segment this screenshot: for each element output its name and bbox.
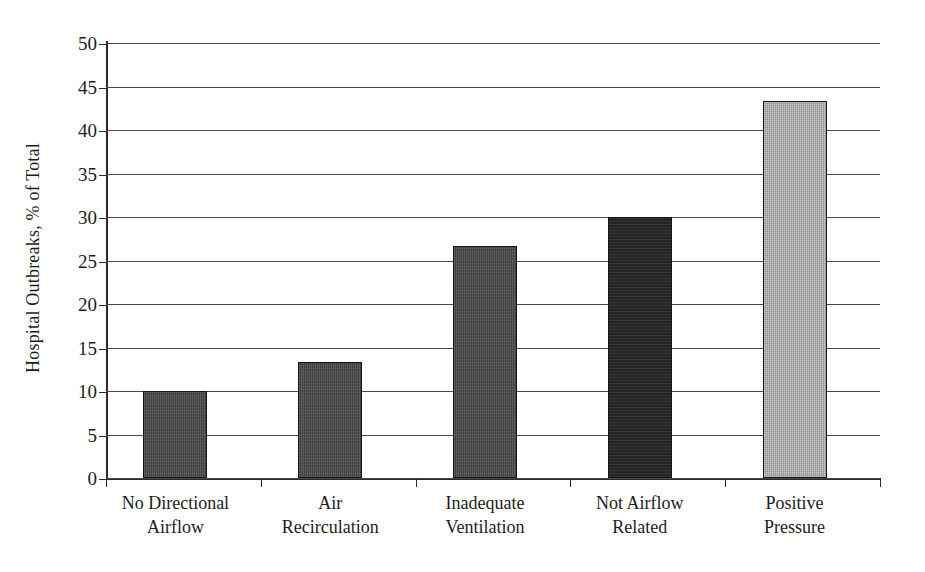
x-category-label-line: Airflow xyxy=(98,516,253,540)
y-tick-label: 35 xyxy=(78,165,97,184)
y-gridline: 0 xyxy=(106,478,880,479)
x-category-label-line: Air xyxy=(253,492,408,516)
x-tick-mark xyxy=(880,478,881,487)
x-category-label-line: Not Airflow xyxy=(562,492,717,516)
x-category-label-line: Ventilation xyxy=(408,516,563,540)
x-category-label-line: Related xyxy=(562,516,717,540)
y-tick-label: 10 xyxy=(78,382,97,401)
y-tick-label: 25 xyxy=(78,252,97,271)
y-gridline: 45 xyxy=(106,87,880,88)
x-tick-mark xyxy=(416,478,417,487)
x-tick-mark xyxy=(725,478,726,487)
plot-area: 50454035302520151050 xyxy=(106,43,880,478)
y-tick-mark xyxy=(99,262,106,263)
x-category-label-line: Pressure xyxy=(717,516,872,540)
y-tick-mark xyxy=(99,175,106,176)
y-tick-mark xyxy=(99,479,106,480)
y-tick-mark xyxy=(99,436,106,437)
bar xyxy=(453,246,517,478)
y-tick-label: 20 xyxy=(78,295,97,314)
y-axis-title: Hospital Outbreaks, % of Total xyxy=(18,38,48,478)
x-category-label: InadequateVentilation xyxy=(408,492,563,540)
x-category-label: No DirectionalAirflow xyxy=(98,492,253,540)
y-tick-mark xyxy=(99,305,106,306)
y-tick-label: 5 xyxy=(88,426,98,445)
x-category-label: AirRecirculation xyxy=(253,492,408,540)
x-category-label-line: Positive xyxy=(717,492,872,516)
y-tick-label: 45 xyxy=(78,78,97,97)
bar xyxy=(143,391,207,478)
y-tick-mark xyxy=(99,44,106,45)
x-category-label: PositivePressure xyxy=(717,492,872,540)
x-category-label-line: Recirculation xyxy=(253,516,408,540)
y-tick-label: 15 xyxy=(78,339,97,358)
x-category-label-line: Inadequate xyxy=(408,492,563,516)
y-gridline: 50 xyxy=(106,43,880,44)
x-tick-mark xyxy=(570,478,571,487)
bar-chart-figure: Hospital Outbreaks, % of Total 504540353… xyxy=(0,0,925,572)
y-tick-label: 50 xyxy=(78,34,97,53)
y-tick-label: 0 xyxy=(88,469,98,488)
y-tick-mark xyxy=(99,349,106,350)
x-tick-mark xyxy=(106,478,107,487)
y-tick-mark xyxy=(99,218,106,219)
x-tick-mark xyxy=(261,478,262,487)
y-tick-label: 30 xyxy=(78,208,97,227)
x-category-label-line: No Directional xyxy=(98,492,253,516)
y-tick-mark xyxy=(99,392,106,393)
bar xyxy=(608,217,672,478)
bar xyxy=(763,101,827,478)
y-tick-mark xyxy=(99,131,106,132)
y-tick-label: 40 xyxy=(78,121,97,140)
bar xyxy=(298,362,362,478)
x-category-label: Not AirflowRelated xyxy=(562,492,717,540)
y-tick-mark xyxy=(99,88,106,89)
